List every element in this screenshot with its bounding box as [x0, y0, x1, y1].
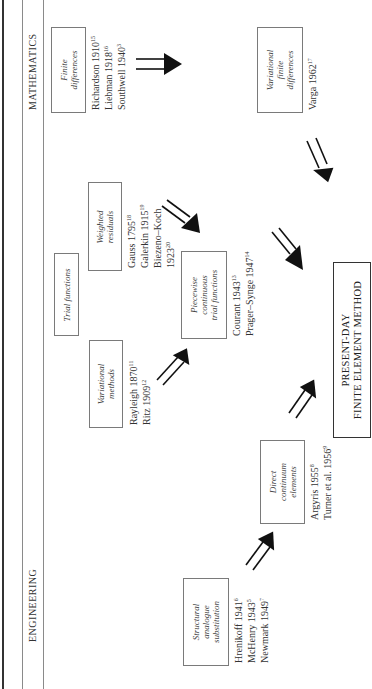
- arrows-layer: [0, 0, 372, 689]
- arrow-wr-to-piecewise: [162, 200, 200, 233]
- arrow-vfd-to-fem: [307, 138, 333, 183]
- arrow-fd-to-vfd: [136, 53, 182, 75]
- arrow-dc-to-fem: [289, 380, 316, 418]
- arrow-vm-to-piecewise: [157, 348, 189, 385]
- arrow-piecewise-to-fem: [272, 228, 303, 270]
- arrow-sa-to-dc: [246, 531, 275, 570]
